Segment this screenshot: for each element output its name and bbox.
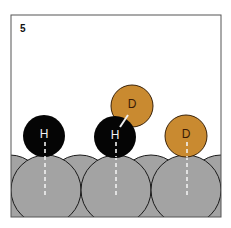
hydrogen-atom-left: H	[23, 115, 65, 157]
surface-adsorption-diagram: 5 H D H D	[0, 0, 231, 228]
panel-label: 5	[20, 23, 26, 34]
atom-label-d-right: D	[182, 127, 191, 141]
deuterium-atom-right: D	[165, 115, 207, 157]
atom-label-h-left: H	[40, 127, 49, 141]
atom-label-h-center: H	[111, 128, 120, 142]
atom-label-d-desorbing: D	[128, 97, 137, 111]
diagram-root: 5 H D H D	[0, 0, 231, 228]
hydrogen-atom-center: H	[94, 116, 136, 158]
